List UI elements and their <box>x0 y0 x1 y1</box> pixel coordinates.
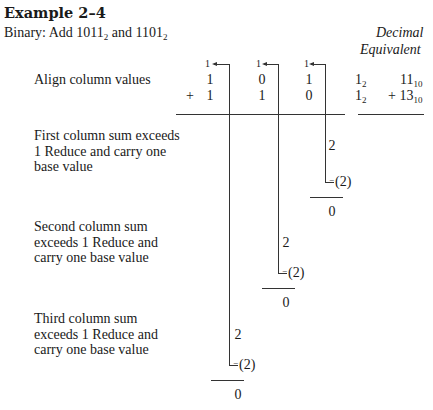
step-3-result: 0 <box>231 388 245 402</box>
example-subtitle: Binary: Add 10112 and 11012 <box>4 26 168 40</box>
decimal-a: 1110 <box>400 73 422 87</box>
step-1-minus: − <box>329 176 334 185</box>
arrow-left-icon <box>262 62 267 66</box>
decimal-subscript: 10 <box>413 79 422 89</box>
subtitle-and: and <box>108 25 135 40</box>
digit: 1 <box>355 88 362 103</box>
base-subscript: 2 <box>362 79 367 89</box>
step-2-minus: − <box>282 267 287 276</box>
arrow-left-icon <box>212 62 217 66</box>
decimal-value: 13 <box>399 88 413 103</box>
a-digit-4: 1 <box>203 73 217 87</box>
step-1-label: First column sum exceeds 1 Reduce and ca… <box>34 128 184 175</box>
step-3-sum: 2 <box>231 328 245 342</box>
b-digit-4: 1 <box>203 89 217 103</box>
carry-path-third <box>229 64 230 366</box>
carry-digit-3: 1 <box>256 59 261 69</box>
decimal-sum-rule <box>358 114 424 115</box>
step-2-rule <box>262 288 295 289</box>
base-subscript: 2 <box>362 95 367 105</box>
step-3-subtract: (2) <box>239 358 255 372</box>
arrow-left-icon <box>309 62 314 66</box>
decimal-header-line1: Decimal <box>376 26 423 40</box>
subtitle-prefix: Binary: Add <box>4 25 76 40</box>
decimal-value: 11 <box>400 72 413 87</box>
example-title: Example 2–4 <box>4 6 106 21</box>
step-3-rule <box>211 380 244 381</box>
a-digit-2: 1 <box>302 73 316 87</box>
step-1-sum: 2 <box>325 139 339 153</box>
decimal-subscript: 10 <box>413 95 422 105</box>
plus-sign: + <box>186 89 194 103</box>
digit: 1 <box>355 72 362 87</box>
operand-b: 1101 <box>136 25 163 40</box>
b-digit-2: 0 <box>302 89 316 103</box>
align-label: Align column values <box>34 73 151 87</box>
step-1-subtract: (2) <box>335 175 351 189</box>
binary-sum-rule <box>176 114 345 115</box>
step-2-label: Second column sum exceeds 1 Reduce and c… <box>34 219 184 266</box>
step-2-sum: 2 <box>279 236 293 250</box>
decimal-b: + 1310 <box>388 89 422 103</box>
carry-path-first <box>325 64 326 183</box>
base-subscript: 2 <box>163 32 168 42</box>
step-2-subtract: (2) <box>288 266 304 280</box>
a-digit-3: 0 <box>255 73 269 87</box>
decimal-header-line2: Equivalent <box>360 43 421 57</box>
step-3-label: Third column sum exceeds 1 Reduce and ca… <box>34 311 184 358</box>
decimal-plus: + <box>388 88 399 103</box>
step-1-result: 0 <box>325 205 339 219</box>
step-3-minus: − <box>233 359 238 368</box>
step-1-rule <box>310 197 343 198</box>
b-digit-3: 1 <box>255 89 269 103</box>
a-digit-1: 12 <box>355 73 367 87</box>
carry-digit-4: 1 <box>205 59 210 69</box>
operand-a: 1011 <box>76 25 103 40</box>
b-digit-1: 12 <box>355 89 367 103</box>
step-2-result: 0 <box>279 296 293 310</box>
